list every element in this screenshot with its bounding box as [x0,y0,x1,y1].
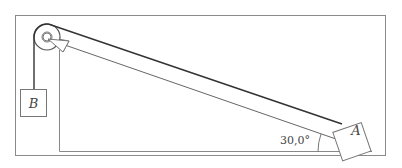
angle-arc [318,134,321,152]
rope-to-a [34,24,342,124]
outer-frame [16,16,386,156]
block-b-label: B [28,96,39,111]
angle-label: 30,0° [280,134,310,147]
pulley-incline-diagram: B A 30,0° [0,0,402,168]
incline-base [60,50,372,152]
block-a-label: A [350,123,360,138]
incline-surface [62,44,372,152]
